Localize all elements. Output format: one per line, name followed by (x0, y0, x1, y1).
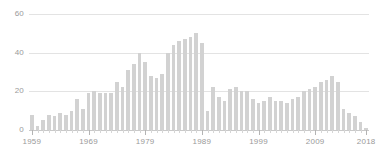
bar (330, 76, 334, 130)
bar (291, 99, 295, 130)
bar (166, 53, 170, 130)
x-tick-2003 (281, 130, 282, 133)
bar (121, 87, 125, 130)
x-tick-1977 (134, 130, 135, 133)
bar (240, 91, 244, 130)
x-tick-1979 (145, 130, 146, 135)
x-tick-1997 (247, 130, 248, 133)
x-tick-1966 (72, 130, 73, 133)
x-tick-1978 (140, 130, 141, 133)
bar (47, 115, 51, 130)
bar (87, 93, 91, 130)
plot-area (29, 14, 369, 130)
x-tick-1985 (179, 130, 180, 133)
bar (302, 91, 306, 130)
x-tick-1970 (94, 130, 95, 133)
bar (325, 80, 329, 130)
x-tick-1974 (117, 130, 118, 133)
x-tick-1986 (185, 130, 186, 133)
x-tick-2011 (327, 130, 328, 133)
bar (194, 33, 198, 130)
bar (359, 122, 363, 130)
y-tick-label-60: 60 (15, 10, 24, 18)
x-tick-2008 (310, 130, 311, 133)
bar (104, 93, 108, 130)
bar (313, 87, 317, 130)
bar (30, 115, 34, 130)
x-tick-1992 (219, 130, 220, 133)
x-tick-label-1989: 1989 (193, 138, 212, 146)
x-tick-1965 (66, 130, 67, 133)
bar (189, 37, 193, 130)
x-tick-1996 (242, 130, 243, 133)
x-tick-1998 (253, 130, 254, 133)
x-tick-1990 (208, 130, 209, 133)
bar (257, 103, 261, 130)
bar (138, 53, 142, 130)
bar (53, 116, 57, 130)
bar (223, 101, 227, 130)
x-tick-1960 (38, 130, 39, 133)
x-tick-1963 (55, 130, 56, 133)
x-tick-1975 (123, 130, 124, 133)
bar (81, 109, 85, 130)
x-tick-1987 (191, 130, 192, 133)
bar (200, 43, 204, 130)
bar (211, 87, 215, 130)
bar (285, 103, 289, 130)
x-tick-1984 (174, 130, 175, 133)
x-tick-1962 (49, 130, 50, 133)
x-tick-2009 (315, 130, 316, 135)
x-tick-1983 (168, 130, 169, 133)
bar (126, 70, 130, 130)
x-tick-2000 (264, 130, 265, 133)
x-tick-1971 (100, 130, 101, 133)
x-tick-2007 (304, 130, 305, 133)
bar (308, 89, 312, 130)
bar (41, 120, 45, 130)
bar (353, 116, 357, 130)
x-tick-label-1999: 1999 (249, 138, 268, 146)
x-tick-2002 (276, 130, 277, 133)
x-tick-1993 (225, 130, 226, 133)
x-tick-1967 (77, 130, 78, 133)
x-tick-2017 (361, 130, 362, 133)
bar (149, 76, 153, 130)
x-tick-1972 (106, 130, 107, 133)
x-tick-label-1969: 1969 (79, 138, 98, 146)
bar (336, 82, 340, 130)
bar (109, 93, 113, 130)
bar (64, 115, 68, 130)
y-tick-label-40: 40 (15, 49, 24, 57)
x-tick-1988 (196, 130, 197, 133)
bar (155, 78, 159, 130)
x-tick-1999 (259, 130, 260, 135)
x-tick-1959 (32, 130, 33, 135)
bar (342, 109, 346, 130)
bar (296, 97, 300, 130)
x-tick-1989 (202, 130, 203, 135)
x-tick-label-1979: 1979 (136, 138, 155, 146)
x-tick-label-2018: 2018 (357, 138, 376, 146)
bar (183, 39, 187, 130)
x-tick-1969 (89, 130, 90, 135)
x-tick-2006 (298, 130, 299, 133)
x-tick-2010 (321, 130, 322, 133)
bar (70, 111, 74, 130)
x-tick-1961 (43, 130, 44, 133)
bar (319, 82, 323, 130)
x-tick-2018 (366, 130, 367, 135)
x-tick-2005 (293, 130, 294, 133)
x-tick-1995 (236, 130, 237, 133)
x-tick-1968 (83, 130, 84, 133)
bar (234, 87, 238, 130)
bar (268, 97, 272, 130)
x-tick-2014 (344, 130, 345, 133)
x-tick-2004 (287, 130, 288, 133)
x-tick-1964 (60, 130, 61, 133)
bar (160, 74, 164, 130)
x-tick-1973 (111, 130, 112, 133)
bar-chart: 0204060 1959196919791989199920092018 (0, 0, 380, 163)
bar (58, 113, 62, 130)
bar (274, 101, 278, 130)
